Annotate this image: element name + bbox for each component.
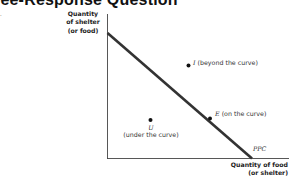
point-e-description: (on the curve)	[222, 110, 267, 117]
point-i-letter: I	[193, 59, 196, 66]
ppc-chart	[0, 0, 289, 176]
point-u-letter: U	[148, 124, 153, 131]
point-i-label: I (beyond the curve)	[193, 59, 258, 66]
x-axis-label-line1: Quantity of food	[218, 161, 288, 169]
point-u	[149, 118, 153, 122]
point-e-letter: E	[215, 110, 220, 117]
point-e	[208, 117, 212, 121]
ppc-label: PPC	[253, 145, 266, 152]
x-axis-label: Quantity of food (or shelter)	[218, 161, 288, 176]
point-e-label: E (on the curve)	[215, 110, 266, 117]
x-axis-label-line2: (or shelter)	[218, 169, 288, 176]
point-i	[187, 64, 191, 68]
point-u-label: U (under the curve)	[122, 124, 180, 138]
ppc-label-text: PPC	[253, 145, 266, 152]
point-i-description: (beyond the curve)	[198, 59, 258, 66]
ppc-curve	[108, 33, 253, 159]
point-u-description: (under the curve)	[122, 131, 180, 138]
